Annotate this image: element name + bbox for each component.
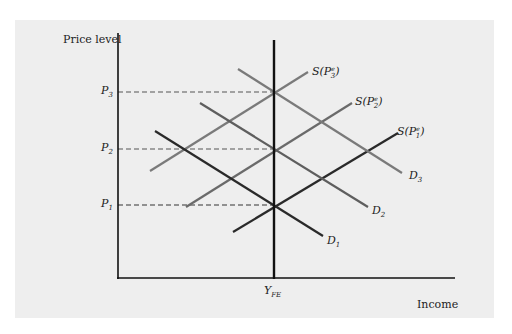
x-axis-label: Income xyxy=(417,299,458,310)
price-label-p1: P1 xyxy=(101,198,113,212)
supply-curve-p2 xyxy=(186,103,352,207)
demand-label-d1: D1 xyxy=(327,235,340,249)
demand-curve-d2 xyxy=(200,103,368,207)
price-label-p2: P2 xyxy=(101,142,113,156)
supply-label-p1: S(Pe1) xyxy=(397,126,425,140)
demand-label-d2: D2 xyxy=(372,205,385,219)
diagram-canvas xyxy=(0,0,512,334)
demand-curve-d1 xyxy=(155,131,323,236)
supply-label-p3: S(Pe3) xyxy=(312,66,340,80)
demand-label-d3: D3 xyxy=(409,170,422,184)
supply-label-p2: S(Pe2) xyxy=(355,96,383,110)
y-fe-label: YFE xyxy=(264,285,281,299)
demand-curve-d3 xyxy=(238,69,402,173)
y-axis-label: Price level xyxy=(63,34,122,45)
price-label-p3: P3 xyxy=(101,85,113,99)
